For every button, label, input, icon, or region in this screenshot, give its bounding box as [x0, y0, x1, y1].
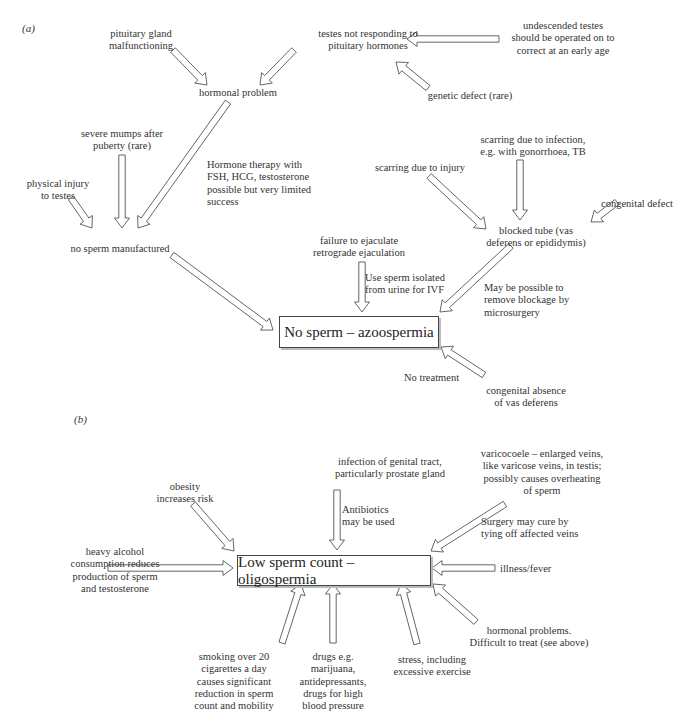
- node-no-sperm-manufactured: no sperm manufactured: [70, 243, 169, 255]
- outcome-oligospermia-label: Low sperm count – oligospermia: [238, 554, 430, 588]
- outcome-azoospermia-label: No sperm – azoospermia: [284, 324, 434, 341]
- arrows-layer: [0, 0, 697, 723]
- note-hormone-therapy: Hormone therapy with FSH, HCG, testoster…: [207, 159, 311, 208]
- node-pituitary: pituitary gland malfunctioning: [109, 28, 173, 53]
- note-no-treatment: No treatment: [404, 372, 459, 384]
- infertility-causes-diagram: (a) pituitary gland malfunctioning teste…: [0, 0, 697, 723]
- hollow-arrow-icon: [396, 62, 430, 91]
- node-scarring-injury: scarring due to injury: [375, 162, 465, 174]
- node-congenital-absence: congenital absence of vas deferens: [486, 385, 566, 410]
- panel-b-label: (b): [74, 413, 87, 425]
- node-injury-testes: physical injury to testes: [27, 178, 90, 203]
- node-genetic-defect: genetic defect (rare): [428, 90, 513, 102]
- hollow-arrow-icon: [513, 160, 528, 220]
- panel-a-label: (a): [22, 22, 35, 34]
- node-smoking: smoking over 20 cigarettes a day causes …: [194, 651, 273, 712]
- node-congenital-defect: congenital defect: [601, 198, 673, 210]
- hollow-arrow-icon: [191, 502, 234, 551]
- node-mumps: severe mumps after puberty (rare): [81, 128, 163, 153]
- note-antibiotics: Antibiotics may be used: [342, 504, 395, 529]
- node-hormonal-problems: hormonal problems. Difficult to treat (s…: [470, 625, 589, 650]
- hollow-arrow-icon: [115, 155, 130, 228]
- note-microsurgery: May be possible to remove blockage by mi…: [484, 282, 569, 319]
- node-stress: stress, including excessive exercise: [393, 654, 470, 679]
- hollow-arrow-icon: [279, 584, 305, 644]
- hollow-arrow-icon: [407, 32, 499, 47]
- node-infection: infection of genital tract, particularly…: [335, 456, 445, 481]
- node-blocked-tube: blocked tube (vas deferens or epididymis…: [486, 225, 586, 250]
- hollow-arrow-icon: [433, 584, 478, 624]
- node-scarring-infection: scarring due to infection, e.g. with gon…: [480, 134, 585, 159]
- hollow-arrow-icon: [260, 48, 296, 85]
- node-illness: illness/fever: [500, 563, 551, 575]
- node-undescended-testes: undescended testes should be operated on…: [511, 20, 614, 57]
- hollow-arrow-icon: [427, 174, 486, 229]
- note-use-sperm: Use sperm isolated from urine for IVF: [365, 272, 445, 297]
- node-alcohol: heavy alcohol consumption reduces produc…: [71, 546, 160, 595]
- outcome-azoospermia-box: No sperm – azoospermia: [279, 316, 439, 348]
- hollow-arrow-icon: [432, 561, 495, 576]
- node-varicocoele: varicocoele – enlarged veins, like varic…: [481, 448, 603, 497]
- hollow-arrow-icon: [170, 252, 273, 330]
- hollow-arrow-icon: [396, 584, 420, 645]
- node-drugs: drugs e.g. marijuana, antidepressants, d…: [300, 651, 367, 712]
- hollow-arrow-icon: [171, 48, 207, 85]
- node-failure-ejaculate: failure to ejaculate retrograde ejaculat…: [313, 235, 405, 260]
- node-obesity: obesity increases risk: [157, 481, 214, 506]
- node-hormonal-problem: hormonal problem: [199, 87, 277, 99]
- note-surgery: Surgery may cure by tying off affected v…: [481, 516, 578, 541]
- node-testes-not-responding: testes not responding to pituitary hormo…: [318, 28, 417, 53]
- hollow-arrow-icon: [326, 584, 341, 643]
- outcome-oligospermia-box: Low sperm count – oligospermia: [237, 555, 431, 586]
